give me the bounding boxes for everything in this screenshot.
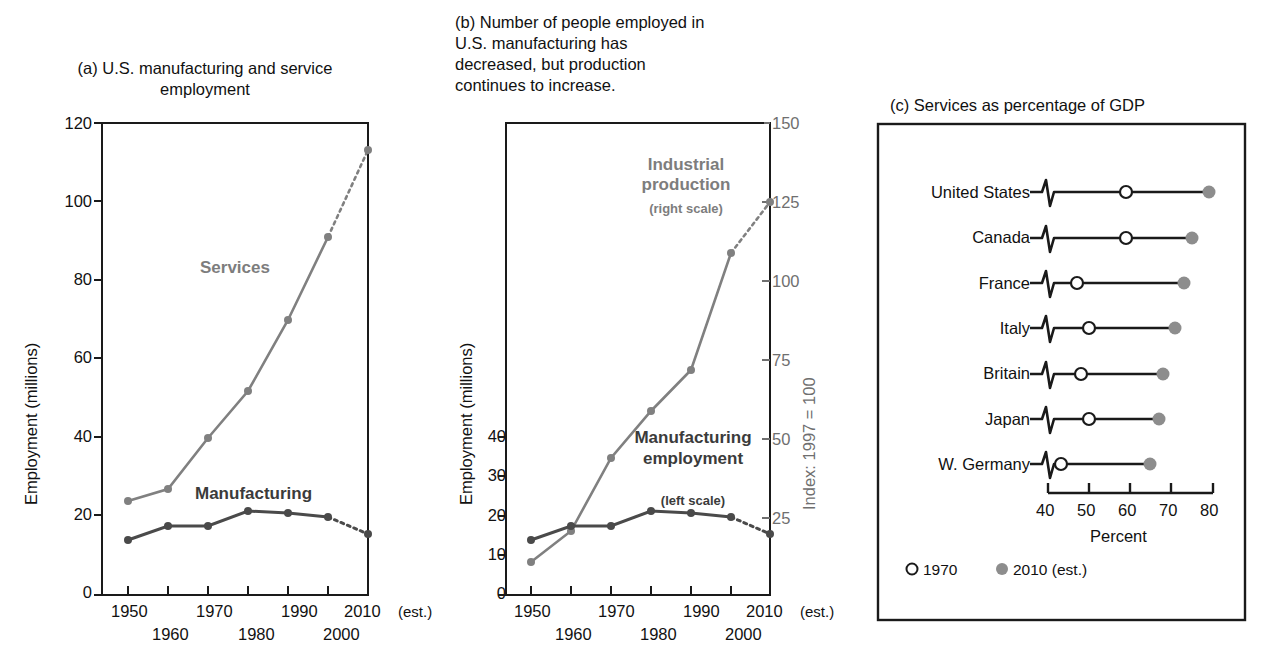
panel-c-row-canada — [1030, 226, 1199, 252]
panel-c-legend-marker-open — [907, 564, 918, 575]
panel-c-row-britain — [1030, 362, 1170, 388]
panel-c-dot-open-france — [1071, 277, 1083, 289]
panel-c-dot-filled-britain — [1157, 368, 1170, 381]
panel-c-dot-filled-canada — [1186, 232, 1199, 245]
panel-c-row-japan — [1030, 407, 1166, 433]
panel-c-dot-open-w-germany — [1055, 458, 1067, 470]
panel-c-dot-filled-italy — [1169, 322, 1182, 335]
panel-c-dot-filled-w-germany — [1144, 458, 1157, 471]
panel-c-dot-filled-france — [1178, 277, 1191, 290]
panel-c-plot-frame — [878, 124, 1245, 620]
panel-c-dot-filled-japan — [1153, 413, 1166, 426]
panel-c-x-axis — [1048, 483, 1213, 493]
panel-c-row-italy — [1030, 316, 1182, 342]
panel-c-dot-open-japan — [1083, 413, 1095, 425]
panel-c-dot-open-italy — [1083, 322, 1095, 334]
panel-c-dot-open-canada — [1120, 232, 1132, 244]
panel-c-dot-filled-united-states — [1203, 186, 1216, 199]
panel-c-dot-open-britain — [1075, 368, 1087, 380]
panel-c-row-united-states — [1030, 180, 1216, 206]
panel-c-legend-marker-filled — [996, 563, 1008, 575]
panel-c-dot-open-united-states — [1120, 186, 1132, 198]
panel-c-row-w-germany — [1030, 452, 1157, 478]
panel-c-row-france — [1030, 271, 1191, 297]
panel-c-plot-svg — [0, 0, 1269, 661]
